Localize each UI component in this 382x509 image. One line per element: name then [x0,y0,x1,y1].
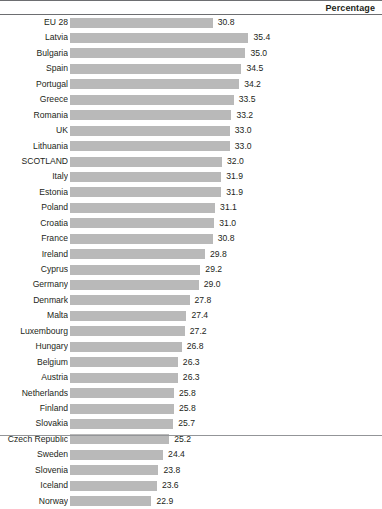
column-header-percentage: Percentage [325,2,375,14]
bar-value-label: 33.0 [235,123,252,138]
bar-value-label: 25.8 [179,401,196,416]
category-label: Austria [0,370,68,385]
bar-value-label: 30.8 [218,231,235,246]
bar-value-label: 33.2 [236,108,253,123]
category-label: Italy [0,169,68,184]
chart-row: Sweden24.4 [0,447,382,462]
category-label: SCOTLAND [0,154,68,169]
bar [70,249,205,259]
bar [70,33,248,43]
category-label: EU 28 [0,15,68,30]
category-label: Denmark [0,293,68,308]
bar-track: 31.9 [70,169,382,184]
bar [70,481,157,491]
bar-track: 30.8 [70,15,382,30]
bar [70,465,158,475]
chart-row: Slovakia25.7 [0,416,382,431]
category-label: Luxembourg [0,324,68,339]
bar-track: 26.8 [70,339,382,354]
bar-track: 26.3 [70,355,382,370]
chart-row: Malta27.4 [0,308,382,323]
bar-value-label: 26.3 [183,370,200,385]
category-label: UK [0,123,68,138]
bar-track: 32.0 [70,154,382,169]
category-label: Lithuania [0,139,68,154]
bar-value-label: 34.2 [244,77,261,92]
bar-track: 31.9 [70,185,382,200]
bar-value-label: 35.0 [250,46,267,61]
bar-track: 30.8 [70,231,382,246]
bar-track: 33.0 [70,139,382,154]
bar-track: 25.8 [70,401,382,416]
chart-row: Greece33.5 [0,92,382,107]
category-label: Romania [0,108,68,123]
bar-track: 34.2 [70,77,382,92]
category-label: France [0,231,68,246]
bar [70,496,151,506]
bar-value-label: 31.9 [226,185,243,200]
bar [70,126,230,136]
bar-value-label: 31.0 [219,216,236,231]
bar [70,187,221,197]
category-label: Sweden [0,447,68,462]
bar-value-label: 34.5 [246,61,263,76]
bar [70,234,213,244]
bar-value-label: 31.1 [220,200,237,215]
bar-value-label: 27.2 [190,324,207,339]
chart-row: Poland31.1 [0,200,382,215]
chart-row: Denmark27.8 [0,293,382,308]
bar-value-label: 32.0 [227,154,244,169]
bar-value-label: 31.9 [226,169,243,184]
category-label: Iceland [0,478,68,493]
chart-plot-area: EU 2830.8Latvia35.4Bulgaria35.0Spain34.5… [0,15,382,432]
category-label: Croatia [0,216,68,231]
bar-track: 27.2 [70,324,382,339]
chart-row: Spain34.5 [0,61,382,76]
bar [70,388,174,398]
bar [70,95,234,105]
chart-row: Iceland23.6 [0,478,382,493]
category-label: Germany [0,277,68,292]
bar [70,357,178,367]
bar [70,172,221,182]
bar [70,342,182,352]
bar-value-label: 29.2 [205,262,222,277]
chart-row: Austria26.3 [0,370,382,385]
chart-row: EU 2830.8 [0,15,382,30]
chart-row: Netherlands25.8 [0,386,382,401]
bar [70,265,200,275]
category-label: Netherlands [0,386,68,401]
bar-value-label: 23.8 [163,463,180,478]
bar-value-label: 29.8 [210,247,227,262]
category-label: Spain [0,61,68,76]
category-label: Norway [0,494,68,509]
bar [70,311,186,321]
bar [70,141,230,151]
bar-track: 23.8 [70,463,382,478]
bar-track: 33.0 [70,123,382,138]
bar-track: 24.4 [70,447,382,462]
bar [70,450,163,460]
bar [70,18,213,28]
bar [70,326,185,336]
bar-track: 33.2 [70,108,382,123]
bar [70,64,241,74]
bar-value-label: 26.8 [187,339,204,354]
category-label: Ireland [0,247,68,262]
bar-track: 35.4 [70,30,382,45]
bar-track: 34.5 [70,61,382,76]
chart-row: Hungary26.8 [0,339,382,354]
chart-row: Cyprus29.2 [0,262,382,277]
chart-row: Germany29.0 [0,277,382,292]
category-label: Hungary [0,339,68,354]
chart-row: France30.8 [0,231,382,246]
bar-track: 27.4 [70,308,382,323]
bar-track: 33.5 [70,92,382,107]
bar [70,203,215,213]
bar [70,79,239,89]
footer-rule [0,435,382,436]
chart-row: Romania33.2 [0,108,382,123]
bar [70,419,173,429]
bar-value-label: 23.6 [162,478,179,493]
